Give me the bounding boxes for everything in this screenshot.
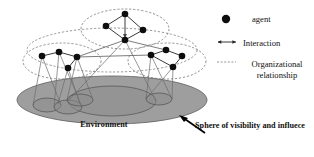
agent-node [56, 49, 63, 56]
legend-label-agent: agent [252, 14, 271, 25]
agent-node [122, 37, 129, 44]
interaction-edges [42, 14, 182, 68]
environment-label: Environment [62, 120, 146, 129]
legend-label-organizational-relationship: Organizational relationship [243, 59, 311, 80]
agent-node [65, 65, 72, 72]
visibility-sphere [67, 94, 93, 106]
figure-root: Environment Sphere of visibility and inf… [0, 0, 314, 157]
legend-label-interaction: Interaction [243, 38, 280, 49]
agent-node [39, 53, 46, 60]
agent-node [163, 47, 170, 54]
agent-node [103, 23, 110, 30]
agent-node [179, 53, 186, 60]
legend-glyphs [217, 15, 236, 62]
organizational-ellipse-left [23, 43, 101, 79]
sphere-of-visibility-label: Sphere of visibility and influece [188, 121, 312, 132]
agent-node [122, 11, 129, 18]
agent-node [170, 64, 177, 71]
agent-node [140, 27, 147, 34]
filled-circle-icon [222, 15, 230, 23]
agent-node [148, 52, 155, 59]
agent-node [74, 54, 81, 61]
